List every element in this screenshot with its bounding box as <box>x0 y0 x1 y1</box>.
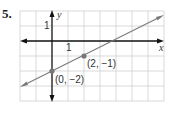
grid <box>20 11 164 101</box>
point-2-neg1 <box>81 53 86 58</box>
x-tick-label: 1 <box>66 42 72 53</box>
point-label-0-neg2: (0, −2) <box>55 74 84 85</box>
y-axis-label: y <box>56 9 62 20</box>
point-label-2-neg1: (2, −1) <box>87 58 116 69</box>
y-tick-label: 1 <box>44 20 50 31</box>
coordinate-graph: y x 1 1 (2, −1) (0, −2) <box>0 0 174 113</box>
x-axis <box>20 39 164 44</box>
x-axis-label: x <box>158 42 164 53</box>
point-0-neg2 <box>49 68 54 73</box>
